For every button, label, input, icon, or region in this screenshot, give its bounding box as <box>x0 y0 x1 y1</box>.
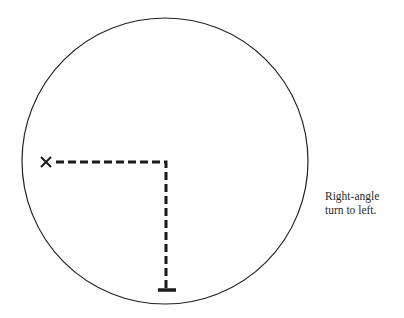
diagram-canvas <box>0 0 404 318</box>
caption: Right-angle turn to left. <box>325 189 379 217</box>
caption-line-1: Right-angle <box>325 189 379 203</box>
caption-line-2: turn to left. <box>325 203 379 217</box>
x-mark-icon <box>41 157 51 167</box>
